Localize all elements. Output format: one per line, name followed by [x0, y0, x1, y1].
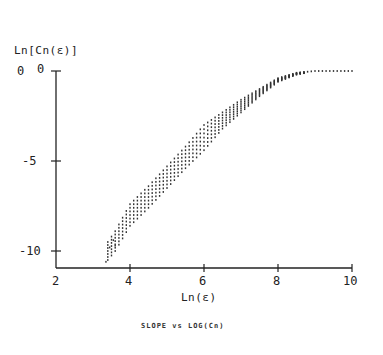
y-tick-label-0: 0 [37, 62, 44, 76]
x-axis-label: Ln(ε) [181, 291, 217, 304]
y-axis-extra-zero: 0 [17, 64, 24, 78]
axes [51, 71, 352, 272]
x-tick-label-10: 10 [343, 274, 357, 288]
x-tick-label-6: 6 [199, 274, 206, 288]
y-tick-label-minus5: -5 [22, 154, 36, 168]
y-tick-label-minus10: -10 [19, 244, 41, 258]
x-tick-label-4: 4 [125, 274, 132, 288]
y-axis-label: Ln[Cn(ε)] [14, 44, 78, 57]
x-tick-label-2: 2 [52, 274, 59, 288]
x-tick-label-8: 8 [273, 274, 280, 288]
data-points [105, 70, 352, 263]
chart-caption: SLOPE vs LOG(Cn) [141, 322, 224, 330]
